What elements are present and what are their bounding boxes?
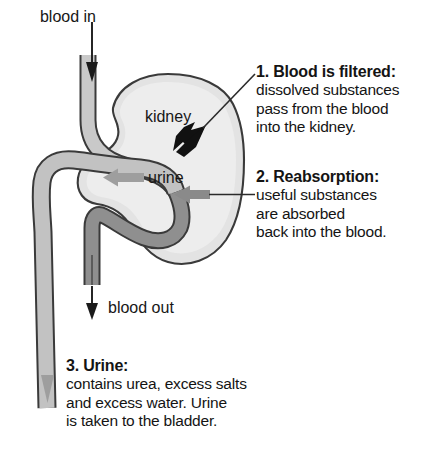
callout-2-line-3: back into the blood. [256, 223, 386, 242]
callout-1-line-3: into the kidney. [256, 118, 399, 137]
callout-3-heading: 3. Urine: [66, 356, 247, 375]
callout-1-line-2: pass from the blood [256, 100, 399, 119]
callout-2-heading: 2. Reabsorption: [256, 167, 386, 186]
blood-out-arrow-icon [86, 286, 98, 320]
callout-1-line-1: dissolved substances [256, 81, 399, 100]
label-urine: urine [148, 169, 184, 186]
callout-2-line-1: useful substances [256, 186, 386, 205]
callout-reabsorption: 2. Reabsorption: useful substances are a… [256, 167, 386, 242]
callout-3-line-3: is taken to the bladder. [66, 412, 247, 431]
callout-urine: 3. Urine: contains urea, excess salts an… [66, 356, 247, 431]
callout-blood-filtered: 1. Blood is filtered: dissolved substanc… [256, 62, 399, 137]
callout-3-line-2: and excess water. Urine [66, 394, 247, 413]
callout-2-line-2: are absorbed [256, 205, 386, 224]
callout-1-heading: 1. Blood is filtered: [256, 62, 399, 81]
label-blood-out: blood out [108, 299, 174, 316]
diagram-page: blood in kidney urine blood out 1. Blood… [0, 0, 443, 464]
label-kidney: kidney [145, 108, 191, 125]
callout-3-line-1: contains urea, excess salts [66, 375, 247, 394]
label-blood-in: blood in [40, 8, 96, 25]
